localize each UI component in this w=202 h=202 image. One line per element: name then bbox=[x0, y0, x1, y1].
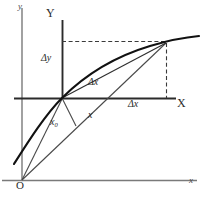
axis-label-X-inner: X bbox=[177, 97, 186, 109]
x-zero-label: x0 bbox=[50, 117, 58, 128]
x-current-label: x bbox=[88, 110, 92, 120]
ray-x-zero-extension bbox=[62, 98, 76, 126]
axis-label-y-outer: y bbox=[18, 2, 22, 11]
axis-label-Y-inner: Y bbox=[46, 7, 55, 19]
delta-y-label: Δy bbox=[41, 53, 51, 63]
delta-x-label: Δx bbox=[128, 99, 138, 109]
secant-chord bbox=[62, 43, 166, 98]
delta-chord-label: Δx bbox=[88, 77, 98, 87]
figure-container: y x Y X O Δy Δx Δx x0 x bbox=[0, 0, 202, 202]
ray-x bbox=[22, 43, 166, 180]
axis-label-x-outer: x bbox=[189, 176, 193, 185]
ray-x-zero bbox=[22, 97, 63, 180]
diagram-canvas bbox=[0, 0, 202, 202]
x-zero-subscript: 0 bbox=[54, 121, 57, 128]
origin-label: O bbox=[16, 180, 24, 191]
